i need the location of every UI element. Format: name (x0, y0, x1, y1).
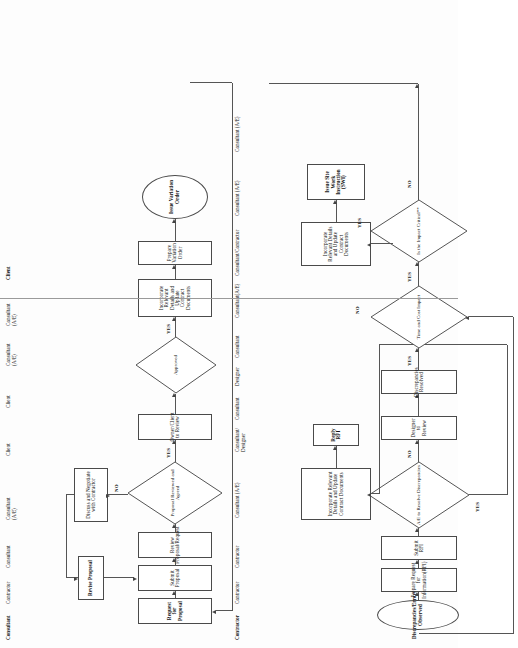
edge-yes-ae-into-incorporate (371, 493, 379, 494)
arrowhead-issue-vo (172, 219, 176, 223)
role-label-consultant-contractor: Consultant/Contractor (235, 230, 241, 276)
arrowhead-feedback-into-rfp (212, 610, 216, 614)
arrowhead-no-time-cost (465, 316, 469, 320)
role-label-consultant-2: Consultant (6, 546, 12, 568)
decision-time-cost-label: Time and Cost Impact (371, 286, 467, 348)
edge-yes-ae-top (379, 345, 380, 494)
node-prepare-request-for-information: Prepare Request for Information(RFI) (381, 568, 457, 592)
edge-yes-ae-down (469, 494, 507, 495)
role-label-client-1: Client (6, 443, 12, 456)
edge-no-time-cost-down (469, 316, 513, 317)
edge-label-no-ae-resolve: NO (407, 450, 412, 458)
decision-impact-critical-label: Is the Impact Critical** (371, 200, 467, 262)
node-incorporate-relevant-details-right: Incorporate Relevant Details and Update … (301, 222, 371, 266)
role-label-consultant-ae-b4: Consultant (A/E) (235, 116, 241, 152)
role-label-contractor-1: Contractor (6, 582, 12, 604)
edge-discuss-up (66, 494, 74, 495)
arrowhead-designer-review (415, 440, 419, 444)
arrowhead-impact-critical (415, 262, 419, 266)
edge-label-no-critical: NO (407, 180, 412, 188)
node-designer-to-review: Designer to Review (381, 416, 457, 440)
arrowhead-submit-rfi (415, 560, 419, 564)
role-label-client-3: Client (6, 266, 12, 280)
role-label-consultant-ae-b2: Consultant(A/E) (235, 284, 241, 318)
node-issue-variation-order: Issue Variation Order (142, 175, 208, 219)
node-issue-site-work-instruction: Issue Site Work Instruction (SWI) (307, 164, 365, 200)
decision-ae-to-resolve-discrepancies: A/E to Resolve Discrepancies (369, 462, 469, 528)
node-request-for-proposal: Request for Proposal (138, 598, 212, 624)
decision-proposal-reviewed-label: Proposal Reviewed and Agreed (128, 462, 222, 524)
role-label-designer: Designer (235, 367, 241, 386)
arrowhead-into-discuss (106, 494, 110, 498)
node-discrepancies-errors-observed: Discrepancies/Errors Observed (377, 600, 459, 630)
edge-owner-to-approved (175, 394, 176, 414)
node-prepare-variation-order: Prepare Variation Order (138, 241, 212, 265)
edge-discuss-to-revise (66, 494, 67, 578)
arrowhead-ae-resolve (415, 528, 419, 532)
edge-feedback-loop-riser (190, 82, 232, 83)
edge-no-time-cost-riser (419, 633, 513, 634)
node-submit-proposal: Submit Proposal (138, 565, 212, 591)
edge-label-yes-time-cost: YES (407, 272, 412, 282)
node-review-proposal-request: Review Proposal/Request (138, 532, 212, 558)
arrowhead-into-incorporate-right (367, 243, 371, 247)
decision-proposal-reviewed-and-agreed: Proposal Reviewed and Agreed (128, 462, 222, 524)
arrowhead-reply-rfi (333, 446, 337, 450)
decision-ae-resolve-label: A/E to Resolve Discrepancies (369, 462, 469, 528)
role-label-consultant-ae-b3: Consultant (A/E) (235, 180, 241, 216)
arrowhead-review-proposal (172, 558, 176, 562)
role-label-client-2: Client (6, 395, 12, 408)
arrowhead-into-submit-proposal (133, 577, 137, 581)
edge-label-yes-approved: YES (166, 324, 171, 334)
edge-no-critical-riser (269, 83, 418, 84)
edge-label-no-agreed: NO (114, 484, 119, 492)
edge-label-yes-resolved: YES (407, 356, 412, 366)
arrowhead-decision-agreed (172, 524, 176, 528)
arrowhead-approved (172, 393, 176, 397)
arrowhead-prepare-vo (172, 265, 176, 269)
arrowhead-issue-swi (333, 200, 337, 204)
decision-time-and-cost-impact: Time and Cost Impact (371, 286, 467, 348)
role-label-consultant-ae-b1: Consultant (A/E) (235, 482, 241, 518)
edge-yes-ae-right (507, 345, 508, 495)
arrowhead-no-critical (415, 84, 419, 88)
role-label-consultant-ae-2: Consultant (A/E) (6, 340, 18, 366)
decision-approved: Approved (136, 337, 216, 393)
role-label-consultant-b2: Consultant (235, 336, 241, 358)
role-label-contractor-b3: Contractor (235, 546, 241, 568)
node-revise-proposal: Revise Proposal (78, 556, 104, 600)
node-incorporate-relevant-details-left: Incorporate Relevant Details and Update … (301, 468, 371, 520)
edge-yes-critical-up (371, 243, 393, 244)
edge-no-critical-right (418, 84, 419, 200)
role-label-consultant-b1: Consultant (235, 398, 241, 420)
role-label-consultant-1: Consultant (6, 615, 12, 640)
role-label-contractor-b2: Contractor (235, 582, 241, 604)
role-label-consultant-designer: Consultant/ Designer (235, 426, 247, 452)
edge-revise-to-submit (104, 577, 134, 578)
edge-no-time-cost-left (513, 317, 514, 634)
edge-label-yes-agreed: YES (166, 448, 171, 458)
node-reply-rfi: Reply RFI (313, 424, 359, 446)
edge-no-to-discuss (108, 494, 128, 495)
edge-label-no-time-cost: NO (355, 306, 360, 314)
arrowhead-submit-proposal (172, 591, 176, 595)
arrowhead-into-incorporate-left (367, 493, 371, 497)
role-label-consultant-ae-1: Consultant (A/E) (6, 494, 18, 520)
decision-approved-label: Approved (136, 337, 216, 393)
arrowhead-into-revise (74, 577, 78, 581)
node-owner-client-to-review: Owner/Client to Review (138, 414, 212, 440)
role-label-consultant-ae-3: Consultant (A/E) (6, 300, 18, 326)
role-label-contractor-b1: Contractor (235, 615, 241, 640)
edge-label-yes-ae-resolve: YES (475, 502, 480, 512)
node-discrepancies-resolved: Discrepancies Resolved (381, 370, 457, 394)
edge-label-yes-critical: YES (357, 218, 362, 228)
decision-is-the-impact-critical: Is the Impact Critical** (371, 200, 467, 262)
node-discuss-and-negotiate: Discuss and Negotiate with Contractor (74, 468, 108, 522)
arrowhead-incorporate-top (172, 317, 176, 321)
sheet-separator (0, 298, 458, 299)
flowchart-rfi-swi: Contractor Contractor Contractor Consult… (229, 0, 518, 648)
node-submit-rfi: Submit RFI (381, 536, 457, 560)
arrowhead-time-cost (415, 348, 419, 352)
